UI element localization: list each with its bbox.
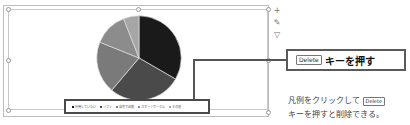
delete-key-icon: Delete — [363, 97, 385, 106]
legend-label: その他 — [172, 104, 181, 109]
legend-label: 自宅で出勤 — [119, 104, 134, 109]
resize-handle-bottom-left[interactable] — [6, 108, 11, 113]
chart-side-toolbar: + ✎ ▽ — [270, 6, 284, 46]
pie-chart[interactable] — [95, 14, 183, 102]
legend-swatch-icon — [169, 106, 171, 108]
legend-item[interactable]: スポーツサークル — [138, 104, 165, 109]
resize-handle-left[interactable] — [6, 58, 11, 63]
legend-item[interactable]: その他 — [169, 104, 181, 109]
legend-label: ソフト — [103, 104, 112, 109]
delete-key-icon: Delete — [296, 55, 322, 65]
legend-label: 利用していない — [75, 104, 96, 109]
resize-handle-top[interactable] — [136, 7, 141, 12]
callout-connector-vertical — [193, 59, 195, 100]
legend-item[interactable]: 自宅で出勤 — [116, 104, 134, 109]
chart-filter-icon[interactable]: ▽ — [273, 30, 282, 39]
chart-legend[interactable]: 利用していない ソフト 自宅で出勤 スポーツサークル その他 — [64, 99, 210, 114]
description-text: 凡例をクリックして Delete キーを押すと削除できる。 — [288, 94, 410, 122]
callout-text: キーを押す — [325, 53, 375, 68]
callout-box: Delete キーを押す — [286, 49, 406, 71]
legend-swatch-icon — [100, 106, 102, 108]
legend-swatch-icon — [72, 106, 74, 108]
resize-handle-bottom-right[interactable] — [266, 110, 271, 115]
legend-swatch-icon — [116, 106, 118, 108]
chart-elements-plus-icon[interactable]: + — [273, 6, 282, 15]
legend-item[interactable]: 利用していない — [72, 104, 96, 109]
chart-styles-brush-icon[interactable]: ✎ — [273, 18, 282, 27]
description-prefix: 凡例をクリックして — [288, 96, 360, 105]
description-line-1: 凡例をクリックして Delete — [288, 94, 410, 108]
resize-handle-top-left[interactable] — [6, 7, 11, 12]
legend-item[interactable]: ソフト — [100, 104, 112, 109]
description-line-2: キーを押すと削除できる。 — [288, 108, 410, 122]
legend-swatch-icon — [138, 106, 140, 108]
legend-label: スポーツサークル — [141, 104, 165, 109]
callout-connector-horizontal — [193, 59, 286, 61]
